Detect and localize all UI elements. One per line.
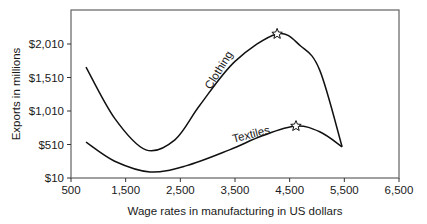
x-tick-label: 5,500 [330,184,359,196]
y-tick-label: $2,010 [29,38,64,50]
clothing-curve [86,33,342,150]
plot-frame [71,10,399,178]
star-icon [291,121,302,131]
star-icon [272,28,282,38]
series-layer: ClothingTextiles [86,28,342,172]
chart-container: $10$510$1,010$1,510$2,010 5001,5002,5003… [0,0,427,224]
x-tick-label: 6,500 [385,184,414,196]
clothing-label: Clothing [202,49,235,91]
y-tick-label: $1,010 [29,105,64,117]
x-tick-label: 500 [61,184,80,196]
textiles-label: Textiles [231,124,271,145]
y-axis-label: Exports in millions [10,47,22,140]
x-tick-label: 4,500 [275,184,304,196]
plot-border [71,10,399,178]
y-tick-label: $1,510 [29,72,64,84]
x-tick-label: 1,500 [111,184,140,196]
textiles-curve [86,126,342,172]
x-axis: 5001,5002,5003,5004,5005,5006,500 [61,178,413,196]
wage-exports-chart: $10$510$1,010$1,510$2,010 5001,5002,5003… [0,0,427,224]
x-tick-label: 3,500 [221,184,250,196]
x-tick-label: 2,500 [166,184,195,196]
y-tick-label: $510 [38,139,64,151]
y-tick-label: $10 [45,172,64,184]
x-axis-label: Wage rates in manufacturing in US dollar… [128,205,343,217]
y-axis: $10$510$1,010$1,510$2,010 [29,38,71,184]
